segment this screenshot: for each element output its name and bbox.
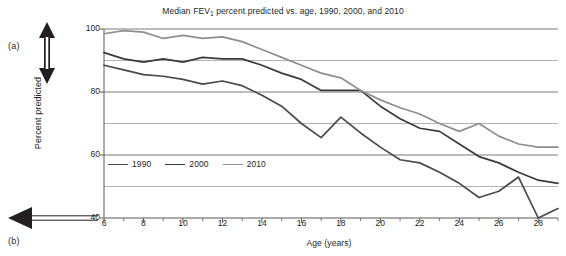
legend-label-2010: 2010 [247,159,266,169]
legend: 199020002010 [108,159,266,169]
legend-item-1990[interactable]: 1990 [108,159,151,169]
series-lines [104,31,558,218]
legend-label-2000: 2000 [189,159,208,169]
legend-swatch-1990 [108,164,128,165]
series-line-1990 [104,65,558,218]
legend-label-1990: 1990 [132,159,151,169]
legend-swatch-2000 [165,164,185,165]
plot-area [0,0,566,256]
figure-container: (a) (b) Median FEV1 percent predicted vs… [0,0,566,256]
legend-item-2000[interactable]: 2000 [165,159,208,169]
legend-item-2010[interactable]: 2010 [223,159,266,169]
series-line-2010 [104,31,558,148]
legend-swatch-2010 [223,164,243,165]
